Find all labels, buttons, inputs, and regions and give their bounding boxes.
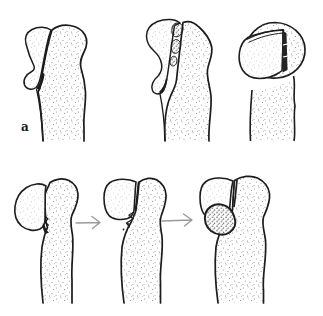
panel-long-bone-with-debris-in-fracture-gap	[147, 19, 212, 141]
bone-speck	[127, 223, 129, 225]
medical-illustration-figure: a	[0, 0, 323, 316]
panel-bone-with-healed-fragment-and-callus	[200, 176, 270, 303]
arrow-right-icon	[76, 217, 100, 229]
bone-speck	[123, 229, 125, 231]
debris-particle	[170, 56, 177, 66]
panel-long-bone-with-avulsed-flake-fragment-displaced	[24, 25, 87, 141]
panel-bone-head-axial-view-with-shell-fragment	[239, 23, 305, 142]
bone-shaft	[250, 78, 295, 141]
bone-fracture-diagram	[0, 0, 323, 316]
cortex-line	[160, 94, 165, 141]
figure-part-label: a	[21, 121, 29, 133]
panel-bone-with-tilted-marginal-fragment	[15, 179, 78, 303]
bone-shaft	[41, 179, 78, 303]
arrow-right-icon	[162, 214, 192, 226]
debris-particle	[171, 40, 181, 54]
panel-bone-with-fragment-partially-reduced	[104, 178, 166, 303]
